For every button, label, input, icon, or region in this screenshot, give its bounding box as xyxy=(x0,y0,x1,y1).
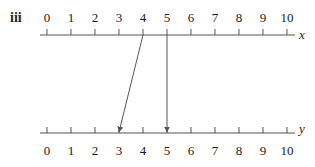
mapping-diagram: iii 012345678910 x 012345678910 y xyxy=(0,0,315,167)
top-tick-label: 7 xyxy=(212,10,219,25)
top-tick-label: 3 xyxy=(116,10,123,25)
bottom-tick-label: 5 xyxy=(164,143,171,158)
top-tick-label: 5 xyxy=(164,10,171,25)
bottom-tick-label: 2 xyxy=(92,143,99,158)
bottom-tick-label: 10 xyxy=(281,143,294,158)
bottom-tick-label: 3 xyxy=(116,143,123,158)
top-number-line: 012345678910 x xyxy=(40,10,305,42)
top-tick-label: 10 xyxy=(281,10,294,25)
bottom-tick-label: 0 xyxy=(44,143,51,158)
bottom-tick-label: 9 xyxy=(260,143,267,158)
mapping-arrow xyxy=(119,35,143,132)
bottom-number-line: 012345678910 y xyxy=(40,121,305,158)
top-tick-label: 9 xyxy=(260,10,267,25)
bottom-tick-label: 1 xyxy=(68,143,75,158)
bottom-axis-name: y xyxy=(297,121,305,136)
top-tick-label: 2 xyxy=(92,10,99,25)
bottom-tick-label: 6 xyxy=(188,143,195,158)
bottom-tick-label: 8 xyxy=(236,143,243,158)
top-tick-label: 8 xyxy=(236,10,243,25)
top-tick-label: 0 xyxy=(44,10,51,25)
bottom-tick-label: 7 xyxy=(212,143,219,158)
top-tick-label: 4 xyxy=(140,10,147,25)
top-tick-label: 6 xyxy=(188,10,195,25)
part-label: iii xyxy=(10,10,22,25)
mapping-arrows xyxy=(119,35,167,132)
top-tick-label: 1 xyxy=(68,10,75,25)
bottom-tick-label: 4 xyxy=(140,143,147,158)
top-axis-name: x xyxy=(298,27,305,42)
